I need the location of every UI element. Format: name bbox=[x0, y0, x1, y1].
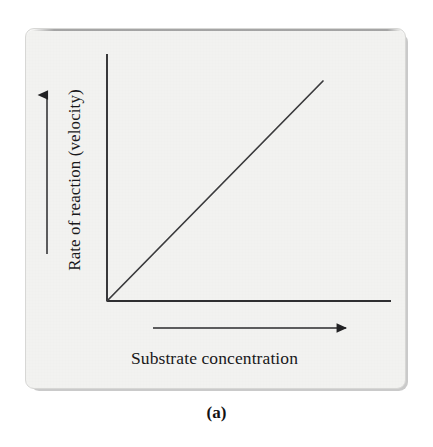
figure-root: Rate of reaction (velocity) Substrate co… bbox=[0, 0, 433, 447]
figure-caption: (a) bbox=[0, 403, 433, 423]
data-series-line bbox=[107, 81, 323, 301]
y-axis-label: Rate of reaction (velocity) bbox=[65, 89, 85, 271]
x-axis-label: Substrate concentration bbox=[25, 348, 404, 369]
